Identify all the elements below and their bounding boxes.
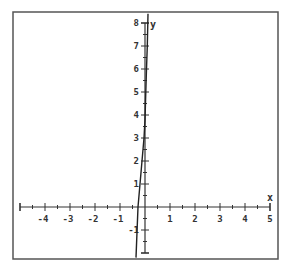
- y-tick-label: 1: [134, 179, 139, 189]
- y-tick-label: 3: [134, 133, 139, 143]
- y-tick-label: 5: [134, 87, 139, 97]
- x-tick-label: 5: [267, 214, 272, 224]
- x-tick-label: -1: [113, 214, 124, 224]
- graph: -4-3-2-112345-112345678 x y: [0, 0, 283, 264]
- y-tick-label: 2: [134, 156, 139, 166]
- x-tick-label: -4: [38, 214, 49, 224]
- tick-marks: [20, 23, 270, 253]
- y-tick-label: 4: [134, 110, 140, 120]
- x-tick-label: 3: [217, 214, 222, 224]
- x-tick-label: 4: [242, 214, 248, 224]
- x-axis-label: x: [267, 192, 273, 203]
- x-tick-label: 2: [192, 214, 197, 224]
- x-tick-label: -3: [63, 214, 74, 224]
- y-tick-label: 7: [134, 41, 139, 51]
- x-tick-label: 1: [167, 214, 172, 224]
- x-tick-label: -2: [88, 214, 99, 224]
- y-tick-label: 6: [134, 64, 139, 74]
- y-axis-label: y: [150, 19, 156, 30]
- y-tick-label: 8: [134, 18, 139, 28]
- tick-labels: -4-3-2-112345-112345678: [38, 18, 273, 235]
